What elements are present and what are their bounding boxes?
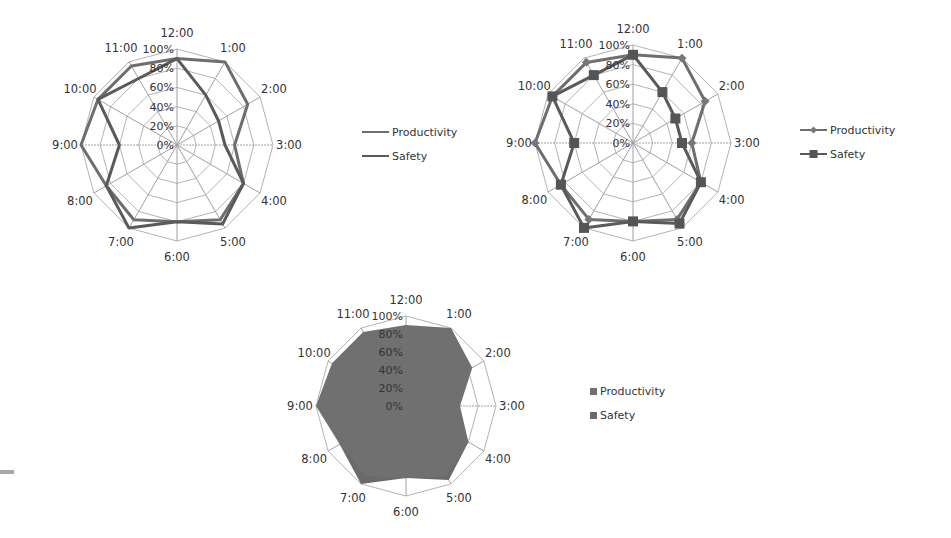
legend-label: Productivity (392, 126, 458, 139)
legend-item-productivity[interactable]: Productivity (362, 126, 458, 139)
category-label: 3:00 (499, 399, 525, 413)
category-label: 5:00 (446, 491, 472, 505)
category-label: 11:00 (559, 37, 592, 51)
category-label: 6:00 (164, 250, 190, 264)
radar-grid (81, 49, 273, 241)
charts-canvas: 0%20%40%60%80%100%12:001:002:003:004:005… (0, 0, 951, 538)
radar-grid (535, 45, 731, 241)
legend: ProductivitySafety (800, 124, 896, 161)
radar-chart-filled: 0%20%40%60%80%100%12:001:002:003:004:005… (287, 293, 666, 519)
category-label: 10:00 (518, 79, 551, 93)
radar-chart-lines: 0%20%40%60%80%100%12:001:002:003:004:005… (52, 26, 458, 264)
category-label: 12:00 (616, 22, 649, 36)
legend: ProductivitySafety (362, 126, 458, 163)
tick-label: 40% (379, 364, 403, 377)
category-label: 6:00 (393, 505, 419, 519)
legend: ProductivitySafety (590, 385, 666, 422)
category-label: 9:00 (52, 138, 78, 152)
marker-square[interactable] (670, 114, 680, 124)
radar-charts-figure: 0%20%40%60%80%100%12:001:002:003:004:005… (0, 0, 951, 538)
tick-label: 80% (150, 62, 174, 75)
category-label: 2:00 (719, 79, 745, 93)
category-label: 8:00 (67, 194, 93, 208)
tick-label: 20% (606, 117, 630, 130)
tick-label: 60% (379, 346, 403, 359)
legend-item-productivity[interactable]: Productivity (590, 385, 666, 398)
tick-label: 0% (386, 400, 403, 413)
legend-label: Safety (600, 409, 636, 422)
tick-label: 100% (143, 43, 174, 56)
marker-square[interactable] (556, 180, 566, 190)
category-label: 7:00 (563, 235, 589, 249)
category-label: 2:00 (261, 82, 287, 96)
category-label: 12:00 (389, 293, 422, 307)
category-label: 2:00 (485, 346, 511, 360)
category-label: 11:00 (104, 41, 137, 55)
category-label: 10:00 (298, 346, 331, 360)
radar-chart-markers: 0%20%40%60%80%100%12:001:002:003:004:005… (506, 22, 896, 264)
category-label: 7:00 (108, 235, 134, 249)
legend-label: Safety (392, 150, 428, 163)
legend-marker-diamond (810, 127, 817, 134)
legend-swatch (590, 412, 597, 419)
legend-label: Productivity (830, 124, 896, 137)
category-label: 10:00 (63, 82, 96, 96)
marker-square[interactable] (628, 216, 638, 226)
legend-item-safety[interactable]: Safety (362, 150, 428, 163)
category-label: 4:00 (719, 193, 745, 207)
tick-label: 40% (150, 101, 174, 114)
category-label: 6:00 (620, 250, 646, 264)
tick-label: 100% (372, 310, 403, 323)
category-label: 4:00 (261, 194, 287, 208)
category-label: 11:00 (336, 307, 369, 321)
tick-label: 0% (157, 139, 174, 152)
marker-square[interactable] (677, 138, 687, 148)
tick-label: 100% (599, 39, 630, 52)
legend-marker-square (810, 150, 818, 158)
category-label: 9:00 (287, 399, 313, 413)
marker-diamond[interactable] (687, 139, 696, 148)
category-label: 1:00 (446, 307, 472, 321)
category-label: 1:00 (677, 37, 703, 51)
category-label: 8:00 (301, 452, 327, 466)
category-label: 3:00 (276, 138, 302, 152)
tick-label: 60% (606, 78, 630, 91)
category-label: 4:00 (485, 452, 511, 466)
marker-square[interactable] (696, 177, 706, 187)
tick-label: 60% (150, 81, 174, 94)
category-label: 5:00 (220, 235, 246, 249)
legend-item-productivity[interactable]: Productivity (800, 124, 896, 137)
category-label: 8:00 (521, 193, 547, 207)
category-label: 7:00 (340, 491, 366, 505)
marker-square[interactable] (569, 138, 579, 148)
category-label: 5:00 (677, 235, 703, 249)
legend-label: Productivity (600, 385, 666, 398)
category-label: 3:00 (734, 136, 760, 150)
category-label: 9:00 (506, 136, 532, 150)
legend-label: Safety (830, 148, 866, 161)
marker-square[interactable] (579, 223, 589, 233)
tick-label: 20% (150, 120, 174, 133)
legend-swatch (590, 388, 597, 395)
tick-label: 40% (606, 98, 630, 111)
tick-label: 80% (606, 59, 630, 72)
legend-item-safety[interactable]: Safety (590, 409, 636, 422)
category-label: 1:00 (220, 41, 246, 55)
marker-square[interactable] (657, 87, 667, 97)
marker-square[interactable] (675, 219, 685, 229)
tick-label: 20% (379, 382, 403, 395)
legend-item-safety[interactable]: Safety (800, 148, 866, 161)
marker-square[interactable] (589, 70, 599, 80)
category-label: 12:00 (160, 26, 193, 40)
edge-marker (0, 470, 14, 474)
tick-label: 0% (613, 137, 630, 150)
tick-label: 80% (379, 328, 403, 341)
